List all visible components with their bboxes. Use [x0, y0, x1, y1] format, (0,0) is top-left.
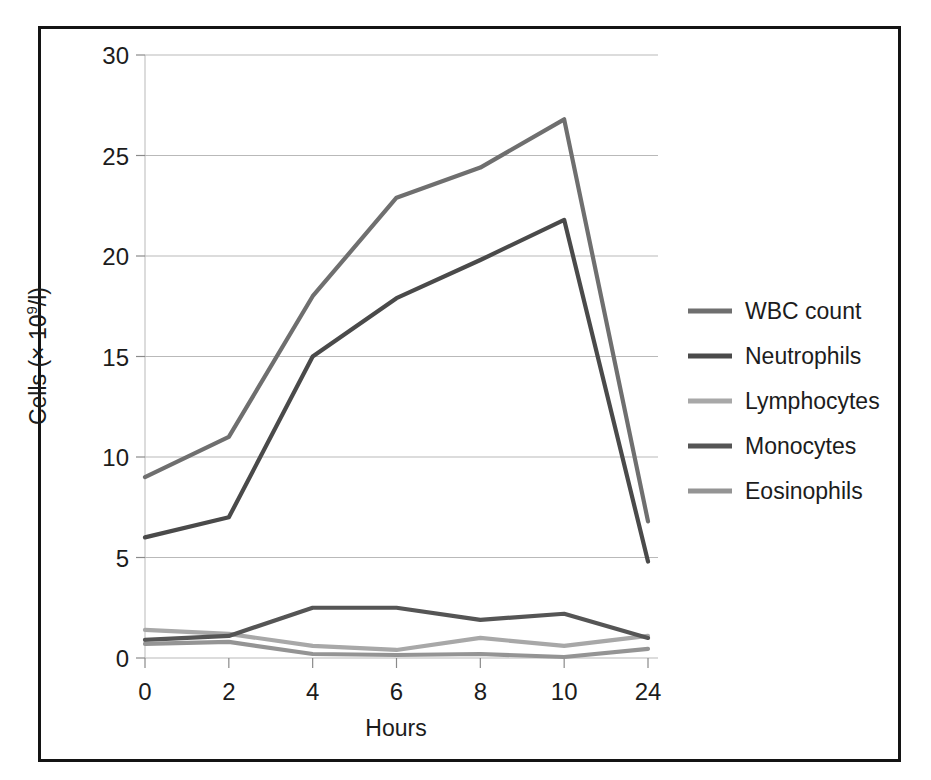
x-tick-label: 10 — [551, 678, 578, 705]
y-tick-label: 20 — [102, 243, 129, 270]
legend-item-lymphocytes[interactable]: Lymphocytes — [688, 388, 880, 414]
y-tick-label: 30 — [102, 42, 129, 69]
x-tick-labels: 024681024 — [138, 678, 661, 705]
legend-item-eosinophils[interactable]: Eosinophils — [688, 478, 863, 504]
series-line-lymphocytes — [145, 630, 648, 650]
y-tick-marks — [136, 55, 145, 658]
y-axis-title-prefix: Cells (× 10 — [25, 314, 51, 425]
figure-canvas: 051015202530 024681024 Hours Cells (× 10… — [0, 0, 931, 780]
legend-label: Monocytes — [745, 433, 856, 459]
x-tick-label: 6 — [390, 678, 403, 705]
legend-label: Lymphocytes — [745, 388, 880, 414]
legend-label: Neutrophils — [745, 343, 861, 369]
y-gridlines — [145, 55, 658, 658]
x-tick-label: 8 — [474, 678, 487, 705]
x-tick-label: 0 — [138, 678, 151, 705]
data-series-layer — [145, 119, 648, 657]
svg-text:Cells (× 109/l): Cells (× 109/l) — [23, 287, 51, 425]
y-tick-label: 5 — [116, 545, 129, 572]
series-line-neutrophils — [145, 220, 648, 562]
legend-item-wbc-count[interactable]: WBC count — [688, 298, 862, 324]
x-tick-marks — [145, 658, 648, 668]
x-tick-label: 2 — [222, 678, 235, 705]
series-line-wbc-count — [145, 119, 648, 521]
y-axis-title-exponent: 9 — [23, 306, 40, 314]
x-tick-label: 24 — [635, 678, 662, 705]
y-tick-labels: 051015202530 — [102, 42, 129, 672]
line-chart: 051015202530 024681024 Hours Cells (× 10… — [0, 0, 931, 780]
legend-label: Eosinophils — [745, 478, 863, 504]
legend-item-neutrophils[interactable]: Neutrophils — [688, 343, 861, 369]
series-line-monocytes — [145, 608, 648, 640]
x-axis-title: Hours — [365, 715, 426, 741]
y-axis-title: Cells (× 109/l) — [23, 287, 51, 425]
legend-label: WBC count — [745, 298, 862, 324]
y-tick-label: 25 — [102, 143, 129, 170]
x-tick-label: 4 — [306, 678, 319, 705]
y-tick-label: 0 — [116, 645, 129, 672]
y-tick-label: 15 — [102, 344, 129, 371]
y-tick-label: 10 — [102, 444, 129, 471]
legend-item-monocytes[interactable]: Monocytes — [688, 433, 856, 459]
y-axis-title-suffix: /l) — [25, 287, 51, 306]
chart-legend: WBC countNeutrophilsLymphocytesMonocytes… — [688, 298, 880, 504]
